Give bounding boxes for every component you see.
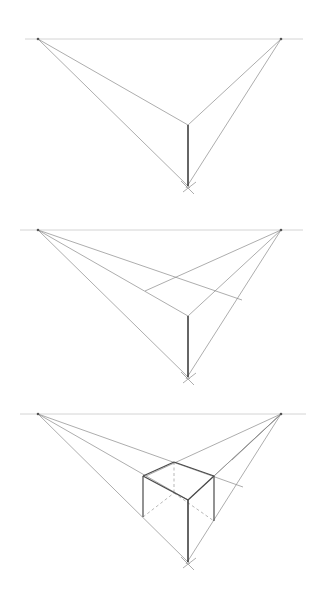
perspective-guide-line [38, 39, 190, 188]
perspective-diagram [0, 0, 332, 599]
perspective-guide-line [38, 414, 188, 500]
perspective-guide-line [145, 230, 281, 291]
box-edge-line [188, 476, 214, 500]
perspective-guide-line [38, 230, 242, 300]
vanishing-point-right [280, 413, 283, 416]
vanishing-point-left [37, 413, 40, 416]
perspective-guide-line [38, 230, 190, 379]
perspective-guide-line [38, 414, 243, 487]
diagram-svg [0, 0, 332, 599]
box-edge-line [143, 476, 188, 500]
hidden-edge-line [174, 493, 214, 521]
hidden-edge-line [143, 493, 174, 517]
box-edge-line [143, 462, 174, 476]
perspective-guide-line [146, 414, 281, 476]
vanishing-point-left [37, 229, 40, 232]
vanishing-point-right [280, 38, 283, 41]
panel-step-3-box [20, 413, 306, 570]
panel-step-1-vanishing-points [25, 38, 303, 194]
vanishing-point-right [280, 229, 283, 232]
vanishing-point-left [37, 38, 40, 41]
box-edge-line [174, 462, 214, 476]
panel-step-2-top-face [20, 229, 303, 385]
